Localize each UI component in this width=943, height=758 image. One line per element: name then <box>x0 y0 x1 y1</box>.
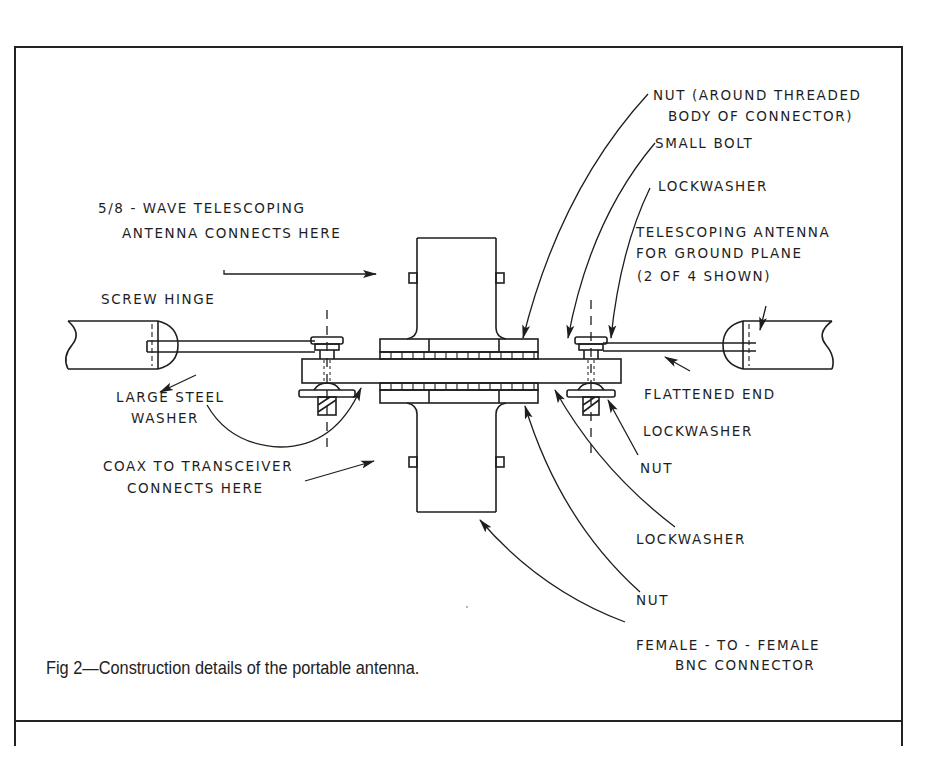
label-telescoping-gp-line2: FOR GROUND PLANE <box>636 247 803 261</box>
right-telescoping-element <box>603 321 833 369</box>
large-steel-washer <box>302 359 621 383</box>
lower-nut <box>380 390 538 403</box>
label-large-washer-line2: WASHER <box>131 412 199 426</box>
bnc-lower-body <box>407 403 506 512</box>
left-bolt-assembly <box>299 310 355 450</box>
arrow-lockwasher-lower <box>555 390 675 527</box>
upper-lockwasher <box>380 352 538 359</box>
figure-caption: Fig 2—Construction details of the portab… <box>46 657 419 679</box>
label-bnc-line1: FEMALE - TO - FEMALE <box>636 639 820 653</box>
label-small-bolt: SMALL BOLT <box>655 137 753 151</box>
arrow-nut-right <box>608 400 638 455</box>
label-nut-threaded-line1: NUT (AROUND THREADED <box>653 89 862 103</box>
label-lockwasher-top: LOCKWASHER <box>658 180 768 194</box>
arrow-small-bolt <box>568 143 655 338</box>
arrow-telescoping-gp <box>760 306 766 330</box>
label-coax-line2: CONNECTS HERE <box>127 482 264 496</box>
arrow-lockwasher-top <box>611 188 650 338</box>
arrow-flattened-end <box>665 357 690 371</box>
bnc-upper-body <box>407 238 506 339</box>
arrow-nut-threaded <box>523 94 648 338</box>
left-telescoping-element <box>66 321 315 369</box>
label-bnc-line2: BNC CONNECTOR <box>675 659 815 673</box>
arrow-wave-antenna <box>224 270 376 274</box>
label-screw-hinge: SCREW HINGE <box>101 293 215 307</box>
label-flattened-end: FLATTENED END <box>644 388 776 402</box>
upper-nut <box>380 339 538 352</box>
label-wave-antenna-line1: 5/8 - WAVE TELESCOPING <box>98 202 306 216</box>
label-nut-lower: NUT <box>636 594 669 608</box>
right-bolt-assembly <box>567 300 615 460</box>
label-large-washer-line1: LARGE STEEL <box>116 391 225 405</box>
label-wave-antenna-line2: ANTENNA CONNECTS HERE <box>122 227 341 241</box>
label-coax-line1: COAX TO TRANSCEIVER <box>103 460 293 474</box>
label-telescoping-gp-line3: (2 OF 4 SHOWN) <box>637 270 771 284</box>
arrow-bnc-connector <box>480 520 625 622</box>
lower-lockwasher <box>380 383 538 390</box>
label-lockwasher-right: LOCKWASHER <box>643 425 753 439</box>
label-telescoping-gp-line1: TELESCOPING ANTENNA <box>636 226 830 240</box>
arrow-coax <box>305 461 374 481</box>
label-nut-right: NUT <box>640 462 673 476</box>
label-nut-threaded-line2: BODY OF CONNECTOR) <box>668 110 853 124</box>
label-lockwasher-lower: LOCKWASHER <box>636 533 746 547</box>
